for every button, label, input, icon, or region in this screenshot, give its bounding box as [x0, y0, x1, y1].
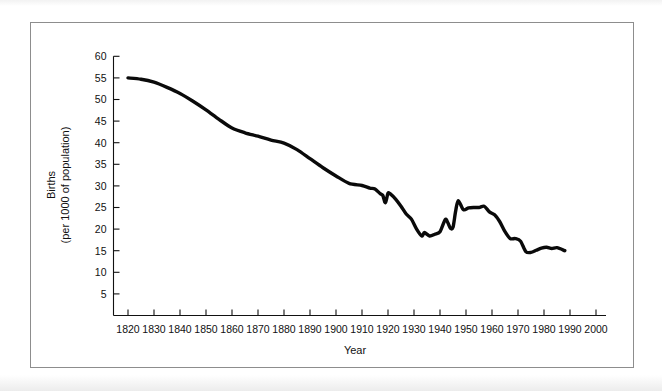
x-tick-label: 1900 [324, 323, 348, 335]
x-tick-label: 1950 [454, 323, 478, 335]
x-tick-label: 1970 [506, 323, 530, 335]
x-tick-label: 1940 [428, 323, 452, 335]
y-tick-label: 5 [101, 288, 107, 300]
y-tick-label: 35 [95, 158, 107, 170]
x-tick-label: 1990 [558, 323, 582, 335]
x-tick-label: 1890 [298, 323, 322, 335]
y-tick-label: 30 [95, 180, 107, 192]
x-tick-label: 1840 [168, 323, 192, 335]
x-tick-label: 1960 [480, 323, 504, 335]
x-tick-label: 1820 [116, 323, 140, 335]
x-axis-tick-marks [128, 310, 596, 316]
y-tick-label: 50 [95, 93, 107, 105]
y-tick-label: 25 [95, 201, 107, 213]
y-axis-title-units: (per 1000 of population) [59, 127, 71, 244]
x-axis-title: Year [344, 344, 367, 356]
y-tick-label: 60 [95, 50, 107, 62]
x-axis-tick-labels: 1820183018401850186018701880189019001910… [116, 323, 608, 335]
x-tick-label: 1830 [142, 323, 166, 335]
y-tick-label: 10 [95, 266, 107, 278]
x-tick-label: 1880 [272, 323, 296, 335]
y-axis-tick-marks [114, 56, 120, 294]
x-tick-label: 1980 [532, 323, 556, 335]
x-tick-label: 1910 [350, 323, 374, 335]
data-series-line [128, 78, 565, 253]
y-axis-title-births: Births [45, 170, 57, 199]
x-tick-label: 1850 [194, 323, 218, 335]
x-tick-label: 1870 [246, 323, 270, 335]
x-tick-label: 1860 [220, 323, 244, 335]
line-chart: 51015202530354045505560 1820183018401850… [0, 0, 662, 391]
y-tick-label: 45 [95, 115, 107, 127]
figure-canvas: 51015202530354045505560 1820183018401850… [0, 0, 662, 391]
y-tick-label: 55 [95, 72, 107, 84]
x-tick-label: 1930 [402, 323, 426, 335]
y-tick-label: 15 [95, 245, 107, 257]
y-tick-label: 20 [95, 223, 107, 235]
y-tick-label: 40 [95, 137, 107, 149]
x-tick-label: 1920 [376, 323, 400, 335]
y-axis-tick-labels: 51015202530354045505560 [95, 50, 107, 300]
x-tick-label: 2000 [584, 323, 608, 335]
